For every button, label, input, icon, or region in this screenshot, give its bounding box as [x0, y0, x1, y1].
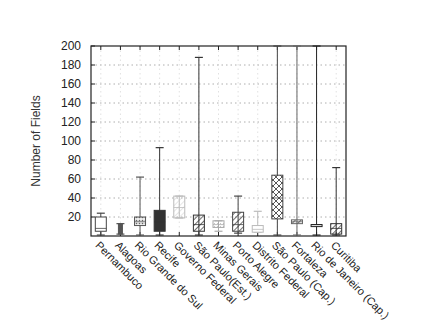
y-axis-title: Number of Fields — [29, 95, 43, 186]
box-porto-alegre — [233, 196, 244, 233]
y-tick-label: 180 — [61, 58, 81, 72]
box-minas-gerais — [213, 221, 224, 231]
box-recife — [154, 148, 165, 235]
y-tick-label: 140 — [61, 96, 81, 110]
box-alagoas — [116, 224, 124, 234]
y-tick-label: 200 — [61, 39, 81, 53]
box-rio-de-janeiro-cap- — [311, 46, 322, 235]
box-s-o-paulo-cap- — [272, 46, 283, 235]
y-tick-label: 160 — [61, 77, 81, 91]
box-pernambuco — [95, 213, 106, 235]
y-tick-label: 120 — [61, 115, 81, 129]
y-tick-label: 80 — [68, 153, 82, 167]
y-tick-label: 100 — [61, 134, 81, 148]
y-tick-label: 40 — [68, 191, 82, 205]
box-curitiba — [331, 168, 342, 235]
y-tick-label: 20 — [68, 210, 82, 224]
box-governo-federal — [174, 196, 185, 218]
y-tick-label: 60 — [68, 172, 82, 186]
plot-area: 20406080100120140160180200Number of Fiel… — [29, 39, 392, 321]
box-rio-grande-do-sul — [135, 177, 146, 235]
box-plot-chart: 20406080100120140160180200Number of Fiel… — [0, 0, 422, 334]
box-distrito-federal — [252, 211, 263, 232]
box-fortaleza — [291, 46, 302, 235]
